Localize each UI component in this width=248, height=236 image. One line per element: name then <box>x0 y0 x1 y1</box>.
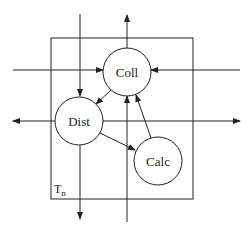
task-box-label-subscript: n <box>61 188 66 198</box>
diagram-canvas: Coll Dist Calc Tn <box>0 0 248 236</box>
edge-dist-to-calc <box>100 133 135 150</box>
node-calc: Calc <box>134 137 182 185</box>
task-box-label: Tn <box>54 182 66 198</box>
node-coll: Coll <box>103 48 151 96</box>
edge-coll-to-dist <box>96 90 111 104</box>
node-calc-label: Calc <box>146 154 170 169</box>
node-coll-label: Coll <box>116 65 139 80</box>
node-dist-label: Dist <box>68 114 90 129</box>
node-dist: Dist <box>55 97 103 145</box>
edge-calc-to-coll <box>136 95 151 138</box>
diagram-svg: Coll Dist Calc Tn <box>0 0 248 236</box>
